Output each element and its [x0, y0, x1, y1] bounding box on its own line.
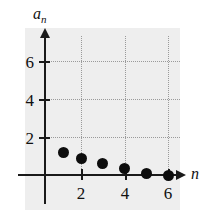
- x-tick-label-2: 2: [71, 185, 91, 202]
- x-tick-label-4: 4: [115, 185, 135, 202]
- y-tick-label-6: 6: [16, 54, 34, 71]
- data-point: [97, 158, 108, 169]
- data-point: [163, 170, 174, 181]
- gridline-vertical-n6: [168, 36, 169, 175]
- y-tick-mark-2: [39, 137, 50, 139]
- plot-panel-background: [25, 28, 180, 210]
- x-tick-label-6: 6: [158, 185, 178, 202]
- gridline-vertical-n4: [125, 36, 126, 175]
- data-point: [58, 147, 69, 158]
- y-axis-title-base: a: [33, 5, 41, 22]
- y-axis-title: an: [33, 6, 47, 25]
- sequence-scatter-figure: 2 4 6 2 4 6 an n: [0, 0, 211, 219]
- y-tick-label-2: 2: [16, 130, 34, 147]
- y-axis-title-subscript: n: [41, 13, 47, 25]
- gridline-horizontal-a6: [44, 61, 180, 62]
- y-tick-label-4: 4: [16, 92, 34, 109]
- data-point: [119, 163, 130, 174]
- gridline-horizontal-a4: [44, 99, 180, 100]
- x-tick-mark-2: [81, 169, 83, 180]
- x-axis-line: [18, 174, 176, 176]
- data-point: [76, 153, 87, 164]
- y-axis-arrowhead: [40, 28, 50, 38]
- data-point: [141, 168, 152, 179]
- y-tick-mark-6: [39, 61, 50, 63]
- y-tick-mark-4: [39, 99, 50, 101]
- x-axis-arrowhead: [176, 170, 186, 180]
- gridline-horizontal-a2: [44, 137, 180, 138]
- x-axis-title: n: [191, 166, 199, 182]
